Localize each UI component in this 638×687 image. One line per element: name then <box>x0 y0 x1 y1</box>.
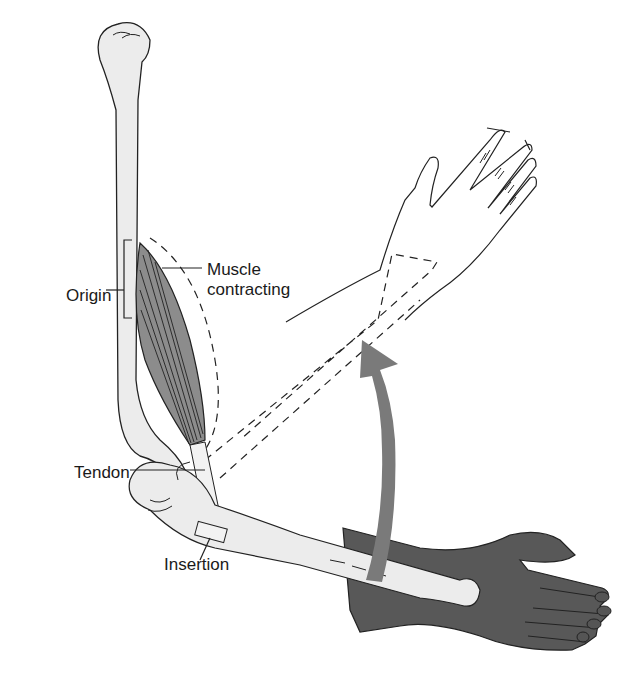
elbow-flexion-diagram <box>0 0 638 687</box>
biceps-muscle <box>136 238 218 450</box>
insertion-label: Insertion <box>164 555 229 575</box>
origin-label: Origin <box>66 286 111 306</box>
muscle-label-line2: contracting <box>207 280 290 300</box>
ulna-radius <box>129 462 480 606</box>
tendon-label: Tendon <box>74 463 130 483</box>
muscle-contracting-label: Muscle contracting <box>207 260 290 300</box>
muscle-label-line1: Muscle <box>207 260 290 280</box>
forearm-end-position <box>286 128 536 322</box>
